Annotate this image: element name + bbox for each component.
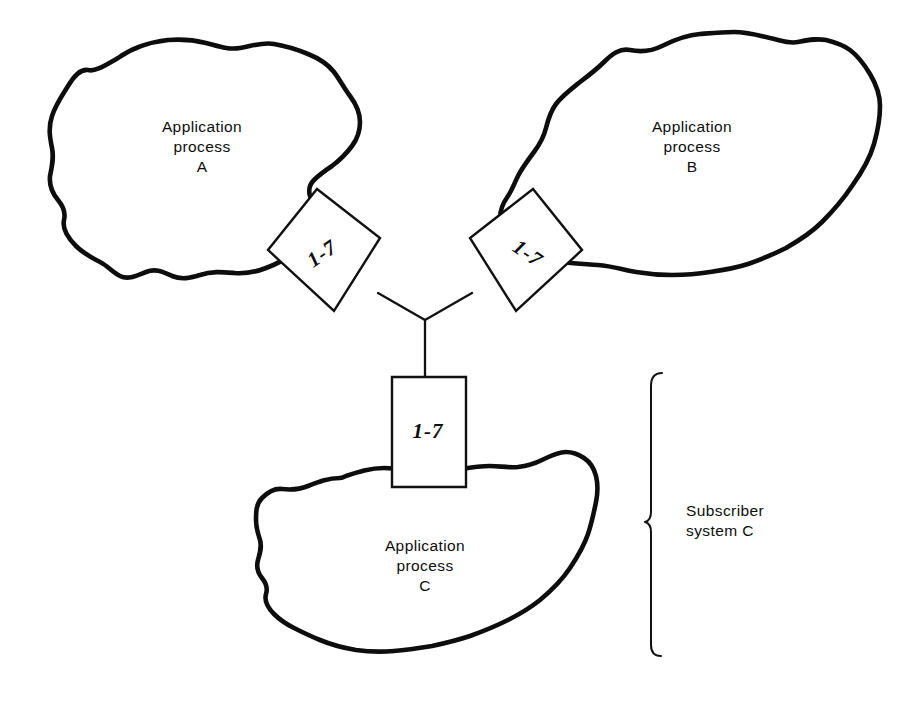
layer-box-c: 1-7: [392, 377, 466, 487]
layer-box-c-label: 1-7: [413, 419, 444, 443]
subscriber-system-label-line1: Subscriber: [686, 502, 764, 519]
process-b-label-line1: Application: [652, 118, 732, 135]
process-b-label-line2: process: [663, 138, 720, 155]
subscriber-system-label-line2: system C: [686, 522, 754, 539]
process-c-label-line2: process: [396, 557, 453, 574]
connector-group: [378, 293, 472, 377]
process-a-label-line2: process: [173, 138, 230, 155]
process-b-label-line3: B: [687, 158, 698, 175]
process-a-label-line1: Application: [162, 118, 242, 135]
subscriber-system-brace: [645, 373, 662, 656]
diagram-canvas: Application process A Application proces…: [0, 0, 915, 702]
process-c-label-line1: Application: [385, 537, 465, 554]
diagram-svg: Application process A Application proces…: [0, 0, 915, 702]
connector-b-to-junction: [425, 293, 472, 320]
process-a-label-line3: A: [197, 158, 208, 175]
process-c-label-line3: C: [419, 577, 431, 594]
connector-a-to-junction: [378, 293, 425, 320]
